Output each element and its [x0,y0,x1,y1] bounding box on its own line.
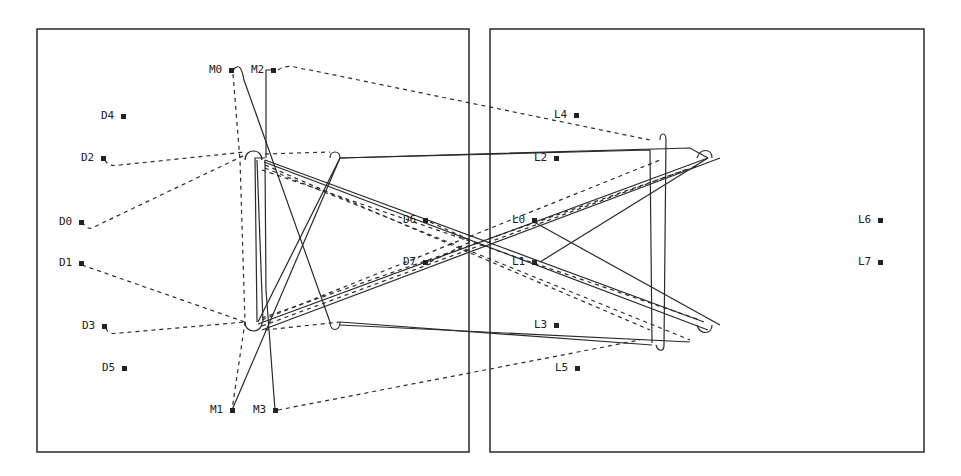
left-panel [37,29,469,452]
solid-wire [257,160,263,322]
pin-label-l2: L2 [534,152,547,164]
pin-terminal-m2 [271,68,276,73]
solid-wire [233,67,330,322]
pin-terminal-d0 [79,220,84,225]
solid-wire-layer [232,67,720,410]
pin-terminal-l6 [878,218,883,223]
pin-label-m3: M3 [253,404,266,416]
pin-label-d5: D5 [102,362,115,374]
pin-terminal-m1 [230,408,235,413]
solid-wire [340,148,708,158]
pin-label-d2: D2 [81,152,94,164]
pin-label-m0: M0 [209,64,222,76]
panel-layer [37,29,924,452]
pin-terminal-l5 [575,366,580,371]
pin-terminal-d6 [423,218,428,223]
solid-wire [697,151,712,159]
pin-terminal-m0 [229,68,234,73]
pin-label-l3: L3 [534,319,547,331]
dashed-wire [265,152,330,154]
pin-terminal-m3 [273,408,278,413]
dashed-wire [106,322,245,333]
pin-label-l5: L5 [555,362,568,374]
pin-label-l0: L0 [512,214,525,226]
solid-wire [232,158,340,410]
pin-terminal-d3 [102,324,107,329]
dashed-wire [105,152,245,165]
right-panel [490,29,924,452]
pin-label-m1: M1 [210,404,223,416]
solid-wire [656,134,666,350]
pin-label-d0: D0 [59,216,72,228]
pin-label-d4: D4 [101,110,114,122]
solid-wire [245,151,262,160]
pin-label-d3: D3 [82,320,95,332]
wire-canvas [0,0,961,476]
pin-terminal-d2 [101,156,106,161]
pin-terminal-d5 [122,366,127,371]
dashed-wire [265,165,650,330]
pin-label-l7: L7 [858,256,871,268]
dashed-wire-layer [82,66,700,410]
pin-label-l6: L6 [858,214,871,226]
pin-label-d6: D6 [403,214,416,226]
pin-terminal-l2 [554,156,559,161]
pin-terminal-l3 [554,323,559,328]
pin-terminal-l7 [878,260,883,265]
pin-label-l1: L1 [512,256,525,268]
pin-label-d1: D1 [59,257,72,269]
dashed-wire [265,322,340,330]
solid-wire [265,160,275,410]
pin-terminal-l0 [532,218,537,223]
pin-label-m2: M2 [251,64,264,76]
solid-wire [340,322,652,345]
dashed-wire [232,74,245,410]
pin-terminal-l1 [532,260,537,265]
pin-terminal-d1 [79,261,84,266]
dashed-wire [82,155,245,228]
pin-terminal-l4 [574,113,579,118]
pin-terminal-d4 [121,114,126,119]
dashed-wire [82,265,245,322]
dashed-wire [278,66,650,140]
solid-wire [340,150,652,343]
solid-wire [330,152,340,158]
pin-terminal-d7 [423,260,428,265]
solid-wire [540,158,708,262]
pin-label-l4: L4 [554,109,567,121]
dashed-wire [278,340,640,410]
solid-wire [534,222,720,325]
routing-diagram: M0M2D4D2D0D1D3D5M1M3D6D7L4L2L0L1L3L5L6L7 [0,0,961,476]
pin-label-d7: D7 [403,256,416,268]
solid-wire [340,325,690,342]
